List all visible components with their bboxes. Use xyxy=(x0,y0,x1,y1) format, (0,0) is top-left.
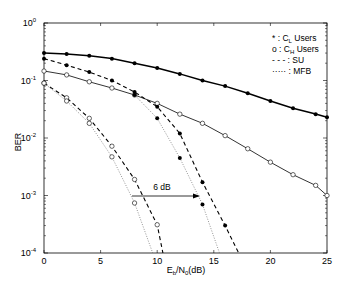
marker-filled-icon xyxy=(87,54,91,58)
annotation-label: 6 dB xyxy=(153,182,171,192)
marker-filled-icon xyxy=(178,131,182,135)
marker-open-icon xyxy=(110,86,114,90)
x-tick-label: 5 xyxy=(98,256,103,266)
arrow-head-icon xyxy=(193,194,200,199)
marker-open-icon xyxy=(268,160,272,164)
x-tick-label: 0 xyxy=(41,256,46,266)
marker-filled-icon xyxy=(65,63,69,67)
x-tick-label: 15 xyxy=(209,256,219,266)
marker-filled-icon xyxy=(178,72,182,76)
marker-open-icon xyxy=(200,121,204,125)
marker-open-icon xyxy=(132,177,136,181)
series-line xyxy=(44,83,153,253)
marker-filled-icon xyxy=(223,224,227,228)
marker-filled-icon xyxy=(110,57,114,61)
y-tick-label: 10-4 xyxy=(21,247,37,258)
y-tick-label: 10-1 xyxy=(21,75,37,86)
marker-filled-icon xyxy=(200,202,204,206)
marker-filled-icon xyxy=(291,106,295,110)
legend-entry-su: - - - : SU xyxy=(272,55,304,65)
marker-open-icon xyxy=(110,144,114,148)
marker-open-icon xyxy=(64,99,68,103)
marker-filled-icon xyxy=(133,93,137,97)
marker-open-icon xyxy=(246,147,250,151)
x-tick-label: 20 xyxy=(265,256,275,266)
plot-annotation: 6 dB xyxy=(132,182,200,199)
marker-filled-icon xyxy=(314,112,318,116)
marker-filled-icon xyxy=(42,57,46,61)
marker-open-icon xyxy=(42,81,46,85)
legend-entry-ch: o : CH Users xyxy=(272,44,319,55)
ber-chart: 051015202510-410-310-210-1100 6 dB * : C… xyxy=(0,0,347,291)
marker-filled-icon xyxy=(223,84,227,88)
x-tick-label: 25 xyxy=(322,256,332,266)
marker-filled-icon xyxy=(200,180,204,184)
y-tick-label: 100 xyxy=(23,17,37,28)
marker-open-icon xyxy=(87,121,91,125)
y-axis-label: BER xyxy=(13,132,23,151)
marker-filled-icon xyxy=(133,61,137,65)
marker-filled-icon xyxy=(87,70,91,74)
series-line xyxy=(135,95,220,253)
marker-open-icon xyxy=(87,116,91,120)
marker-filled-icon xyxy=(155,116,159,120)
marker-open-icon xyxy=(87,80,91,84)
marker-open-icon xyxy=(110,155,114,159)
marker-filled-icon xyxy=(65,52,69,56)
marker-open-icon xyxy=(313,183,317,187)
marker-open-icon xyxy=(223,133,227,137)
marker-open-icon xyxy=(155,223,159,227)
marker-filled-icon xyxy=(268,99,272,103)
marker-filled-icon xyxy=(246,91,250,95)
marker-filled-icon xyxy=(42,51,46,55)
marker-filled-icon xyxy=(155,105,159,109)
marker-filled-icon xyxy=(325,115,329,119)
legend-entry-mfb: ····· : MFB xyxy=(272,66,312,76)
marker-open-icon xyxy=(132,201,136,205)
marker-open-icon xyxy=(64,73,68,77)
marker-open-icon xyxy=(42,69,46,73)
marker-filled-icon xyxy=(155,66,159,70)
marker-open-icon xyxy=(325,193,329,197)
marker-open-icon xyxy=(178,112,182,116)
marker-open-icon xyxy=(291,173,295,177)
y-tick-label: 10-2 xyxy=(21,132,37,143)
series-line xyxy=(44,83,163,253)
legend: * : CL Users o : CH Users - - - : SU ···… xyxy=(272,33,319,76)
marker-filled-icon xyxy=(200,79,204,83)
x-axis-label: Eb/N0(dB) xyxy=(167,265,206,276)
plot-series xyxy=(42,51,329,253)
x-tick-label: 10 xyxy=(152,256,162,266)
y-tick-label: 10-3 xyxy=(21,190,37,201)
legend-entry-cl: * : CL Users xyxy=(272,33,316,44)
series-line xyxy=(44,71,327,196)
marker-filled-icon xyxy=(178,156,182,160)
marker-filled-icon xyxy=(110,79,114,83)
